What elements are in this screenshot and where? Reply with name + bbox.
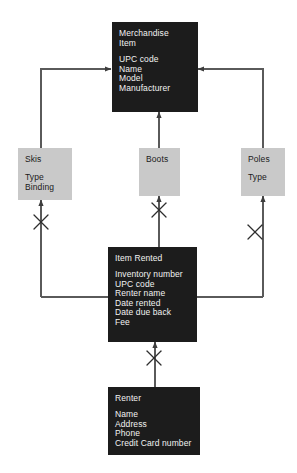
entity-attributes: Inventory number UPC code Renter name Da…	[115, 270, 197, 328]
entity-item-rented[interactable]: Item Rented Inventory number UPC code Re…	[108, 247, 197, 342]
entity-merchandise-item[interactable]: Merchandise Item UPC code Name Model Man…	[112, 22, 198, 112]
entity-renter[interactable]: Renter Name Address Phone Credit Card nu…	[108, 387, 200, 455]
attribute: Binding	[25, 183, 72, 193]
entity-title: Merchandise Item	[119, 28, 198, 48]
entity-title: Skis	[25, 154, 72, 164]
attribute: Credit Card number	[115, 439, 200, 449]
entity-skis[interactable]: Skis Type Binding	[18, 148, 72, 200]
cardinality-marker-poles	[248, 225, 262, 239]
entity-attributes: Type	[248, 173, 285, 183]
diagram-canvas: Merchandise Item UPC code Name Model Man…	[0, 0, 297, 473]
entity-title: Boots	[146, 154, 180, 164]
entity-attributes: Type Binding	[25, 173, 72, 192]
connector-poles-to-merchandise	[198, 69, 263, 148]
attribute: Fee	[115, 318, 197, 328]
entity-boots[interactable]: Boots	[139, 148, 180, 196]
entity-attributes: UPC code Name Model Manufacturer	[119, 55, 198, 93]
connector-skis-to-merchandise	[41, 69, 111, 148]
cardinality-marker-renter	[147, 351, 161, 365]
entity-attributes: Name Address Phone Credit Card number	[115, 410, 200, 448]
attribute: Type	[248, 173, 285, 183]
attribute: Manufacturer	[119, 84, 198, 94]
entity-title: Renter	[115, 393, 200, 403]
entity-title: Poles	[248, 154, 285, 164]
entity-poles[interactable]: Poles Type	[241, 148, 285, 196]
entity-title: Item Rented	[115, 253, 197, 263]
